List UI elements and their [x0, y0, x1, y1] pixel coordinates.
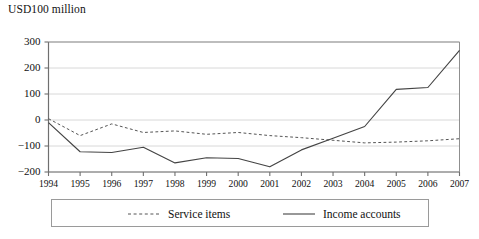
x-tick-label: 2000: [229, 178, 248, 189]
y-tick-label: −100: [3, 139, 41, 151]
x-tick-label: 2007: [450, 178, 469, 189]
chart-figure: USD100 million 3002001000−100−200 199419…: [0, 0, 479, 239]
x-tick-label: 1995: [71, 178, 90, 189]
legend-label-service-items: Service items: [168, 208, 230, 220]
x-tick-label: 2002: [292, 178, 311, 189]
legend-item-service-items: Service items: [127, 200, 230, 228]
legend-swatch-solid: [282, 210, 316, 218]
x-tick-label: 1996: [102, 178, 121, 189]
y-tick-label: 300: [3, 35, 41, 47]
x-tick-label: 1999: [197, 178, 216, 189]
x-tick-label: 1994: [39, 178, 58, 189]
series-line-service-items: [49, 119, 460, 143]
x-tick-label: 2001: [260, 178, 279, 189]
y-tick-label: 0: [3, 113, 41, 125]
y-tick-label: 200: [3, 61, 41, 73]
legend-item-income-accounts: Income accounts: [282, 200, 401, 228]
x-tick-label: 2003: [323, 178, 342, 189]
x-tick-label: 1998: [165, 178, 184, 189]
x-tick-label: 2004: [355, 178, 374, 189]
x-tick-label: 2006: [418, 178, 437, 189]
y-tick-label: 100: [3, 87, 41, 99]
legend-label-income-accounts: Income accounts: [323, 208, 401, 220]
y-tick-label: −200: [3, 165, 41, 177]
x-tick-label: 2005: [387, 178, 406, 189]
legend-swatch-dashed: [127, 210, 161, 218]
x-tick-label: 1997: [134, 178, 153, 189]
chart-legend: Service items Income accounts: [51, 199, 429, 227]
x-axis-ticks: [49, 172, 460, 176]
